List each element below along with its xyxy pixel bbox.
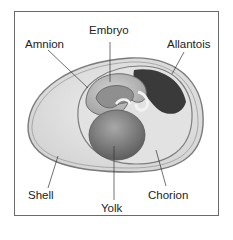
label-shell: Shell: [28, 190, 54, 202]
label-amnion: Amnion: [25, 39, 64, 51]
label-yolk: Yolk: [101, 203, 122, 215]
yolk: [89, 110, 145, 160]
label-allantois: Allantois: [167, 39, 210, 51]
label-chorion: Chorion: [148, 190, 188, 202]
label-embryo: Embryo: [89, 25, 129, 37]
